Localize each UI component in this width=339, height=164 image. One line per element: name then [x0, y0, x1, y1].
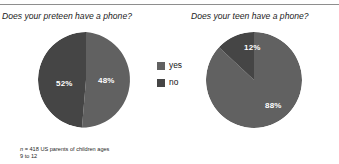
- legend-swatch-no: [157, 79, 165, 87]
- page-title: WHO HAS A PHONE?: [0, 0, 339, 2]
- pie-label-no: 12%: [244, 43, 261, 52]
- legend-swatch-yes: [157, 62, 165, 70]
- pie-label-yes: 48%: [98, 76, 115, 85]
- footnote-line1: = 418 US parents of children ages: [23, 146, 109, 152]
- pie-label-no: 52%: [56, 79, 73, 88]
- chart-title-teen: Does your teen have a phone?: [170, 11, 339, 21]
- pie-chart-teen: 88% 12%: [206, 32, 302, 128]
- header-divider: [0, 4, 339, 5]
- footnote-line2: 9 to 12: [20, 153, 37, 159]
- footnote-preteen: n = 418 US parents of children ages9 to …: [20, 146, 160, 160]
- chart-panel-preteen: Does your preteen have a phone? 48% 52% …: [0, 8, 169, 164]
- pie-label-yes: 88%: [265, 101, 282, 110]
- pie-chart-preteen: 48% 52%: [38, 32, 134, 128]
- chart-title-preteen: Does your preteen have a phone?: [0, 11, 169, 21]
- pie-svg-preteen: [38, 32, 134, 128]
- chart-panel-teen: Does your teen have a phone? 88% 12% n =…: [170, 8, 339, 164]
